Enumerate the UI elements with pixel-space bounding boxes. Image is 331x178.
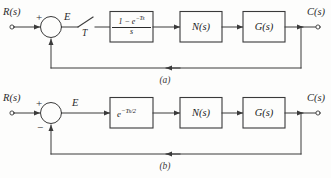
input-terminal-b	[10, 111, 14, 115]
delay-expression-b: e−Ts/2	[117, 107, 136, 119]
output-label-b: C(s)	[307, 93, 325, 104]
output-terminal-a	[316, 25, 320, 29]
sum-plus-sign-b: +	[36, 98, 42, 109]
caption-a: (a)	[145, 75, 185, 85]
zoh-numerator-a: 1 − e−Ts	[112, 15, 151, 28]
input-terminal-a	[10, 25, 14, 29]
input-label-b: R(s)	[3, 93, 21, 104]
caption-b: (b)	[145, 161, 185, 171]
zero-order-hold-expression-a: 1 − e−Ts s	[112, 15, 151, 37]
summing-junction-a	[41, 17, 62, 38]
figure-canvas: R(s) + E T 1 − e−Ts s N(s) G(s) C(s) (a)…	[0, 0, 331, 178]
summing-junction-b	[41, 103, 62, 124]
output-terminal-b	[316, 111, 320, 115]
sampler-period-label-a: T	[82, 29, 87, 39]
zoh-denominator-a: s	[112, 28, 151, 37]
block-label-g-b: G(s)	[243, 107, 285, 118]
output-label-a: C(s)	[307, 7, 325, 18]
sum-plus-sign-a: +	[36, 12, 42, 23]
sum-minus-sign-b: −	[37, 122, 43, 133]
error-label-a: E	[64, 12, 70, 23]
block-label-n-a: N(s)	[180, 21, 222, 32]
error-label-b: E	[72, 98, 78, 109]
block-label-n-b: N(s)	[180, 107, 222, 118]
input-label-a: R(s)	[3, 7, 21, 18]
sampler-blade-a	[78, 17, 93, 27]
block-label-g-a: G(s)	[243, 21, 285, 32]
